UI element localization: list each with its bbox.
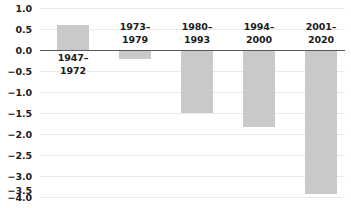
y-axis-tick-label: 1.0 [0, 3, 32, 14]
category-label-line1: 1973– [105, 21, 165, 34]
gridline-1.0 [40, 8, 345, 9]
gridline--2.0 [40, 134, 345, 135]
chart-figure: 1.0 0.5 0.0 −0.5 −1.0 −1.5 −2.0 −2.5 −3.… [0, 0, 351, 208]
category-label-line1: 1947– [43, 52, 103, 65]
category-label-2001-2020: 2001– 2020 [291, 21, 351, 46]
category-label-line2: 1979 [105, 34, 165, 47]
category-label-line2: 1993 [167, 34, 227, 47]
category-label-line2: 1972 [43, 65, 103, 78]
y-axis-tick-label: −0.5 [0, 66, 32, 77]
category-label-line2: 2000 [229, 34, 289, 47]
category-label-line1: 1980– [167, 21, 227, 34]
bar-2001-2020 [305, 51, 337, 194]
category-label-1973-1979: 1973– 1979 [105, 21, 165, 46]
bar-1980-1993 [181, 51, 213, 113]
gridline--2.5 [40, 155, 345, 156]
gridline--1.5 [40, 113, 345, 114]
y-axis-tick-label: −2.5 [0, 150, 32, 161]
bar-1947-1972 [57, 25, 89, 50]
category-label-1947-1972: 1947– 1972 [43, 52, 103, 77]
category-label-line2: 2020 [291, 34, 351, 47]
gridline--4.0 [40, 197, 345, 198]
category-label-1994-2000: 1994– 2000 [229, 21, 289, 46]
category-label-line1: 1994– [229, 21, 289, 34]
plot-area: 1.0 0.5 0.0 −0.5 −1.0 −1.5 −2.0 −2.5 −3.… [40, 8, 345, 200]
gridline-zero [40, 50, 345, 51]
y-axis-tick-label: 0.5 [0, 24, 32, 35]
y-axis-tick-label: 0.0 [0, 45, 32, 56]
bar-1973-1979 [119, 51, 151, 59]
y-axis-tick-label: −1.0 [0, 87, 32, 98]
y-axis-tick-label: −1.5 [0, 108, 32, 119]
y-axis-tick-label: −4.0 [0, 192, 32, 203]
y-axis-tick-label: −2.0 [0, 129, 32, 140]
gridline--3.0 [40, 176, 345, 177]
category-label-line1: 2001– [291, 21, 351, 34]
y-axis-tick-label: −3.0 [0, 171, 32, 182]
bar-1994-2000 [243, 51, 275, 127]
category-label-1980-1993: 1980– 1993 [167, 21, 227, 46]
